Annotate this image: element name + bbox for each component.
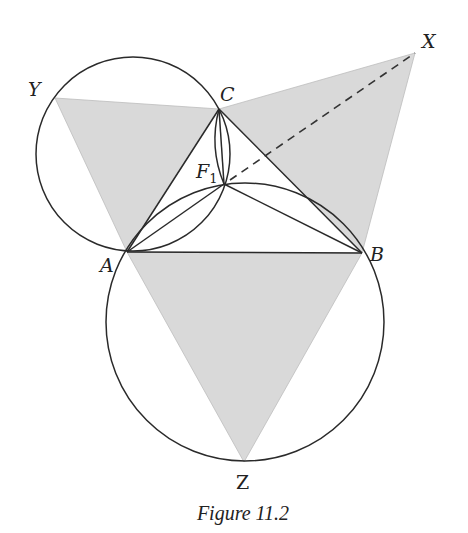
figure-caption: Figure 11.2	[196, 502, 289, 525]
label-F1: F1	[195, 160, 217, 186]
label-X: X	[420, 30, 437, 52]
label-Y: Y	[28, 78, 43, 100]
geometry-figure: Y C X F1 A B Z Figure 11.2	[0, 0, 468, 533]
label-B: B	[369, 243, 384, 265]
label-F1-main: F	[195, 160, 210, 182]
label-Z: Z	[236, 471, 249, 493]
segment-AB	[127, 252, 362, 253]
label-A: A	[98, 254, 114, 276]
triangle-ABZ	[127, 252, 362, 462]
label-F1-subscript: 1	[209, 171, 217, 186]
triangle-BCX	[219, 53, 415, 253]
label-C: C	[220, 83, 235, 105]
